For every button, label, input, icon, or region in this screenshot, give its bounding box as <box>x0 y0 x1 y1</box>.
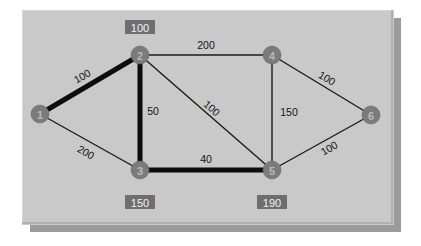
node-label-1: 1 <box>37 109 43 121</box>
node-label-2: 2 <box>137 50 143 62</box>
node-label-5: 5 <box>269 165 275 177</box>
diagram-canvas: 1002005020010040150100100 123456 1001501… <box>0 0 421 246</box>
edge-1-2 <box>40 55 140 114</box>
edge-weight-5-6: 100 <box>318 138 339 157</box>
node-label-6: 6 <box>368 110 374 122</box>
edge-1-3 <box>40 114 140 170</box>
graph-svg: 1002005020010040150100100 123456 1001501… <box>0 0 421 246</box>
node-label-3: 3 <box>137 165 143 177</box>
edge-weight-2-5: 100 <box>201 98 222 119</box>
edge-weight-1-3: 200 <box>75 143 96 162</box>
distance-value-node-5: 190 <box>263 197 281 209</box>
edge-weights-layer: 1002005020010040150100100 <box>71 39 339 165</box>
edge-weight-2-3: 50 <box>147 105 159 117</box>
node-label-4: 4 <box>269 50 276 62</box>
distance-value-node-2: 100 <box>131 22 149 34</box>
edge-weight-3-5: 40 <box>200 153 212 165</box>
edge-weight-2-4: 200 <box>197 39 215 51</box>
edge-5-6 <box>272 115 371 170</box>
distance-value-node-3: 150 <box>131 197 149 209</box>
edge-weight-4-6: 100 <box>316 68 337 87</box>
edge-weight-4-5: 150 <box>280 106 298 118</box>
